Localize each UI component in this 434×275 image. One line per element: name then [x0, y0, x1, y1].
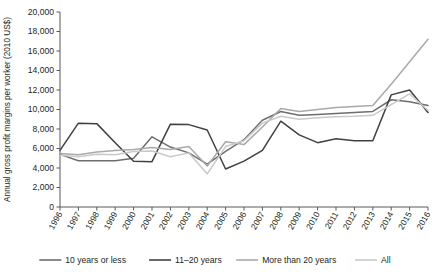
x-tick-label: 2014 — [377, 210, 395, 231]
x-tick-label: 2013 — [359, 210, 377, 231]
legend-item[interactable]: All — [355, 255, 391, 265]
y-tick-label: 14,000 — [28, 65, 55, 75]
chart-canvas: 02,0004,0006,0008,00010,00012,00014,0001… — [0, 0, 434, 275]
y-tick-label: 6,000 — [32, 143, 54, 153]
x-tick-label: 2002 — [157, 210, 175, 231]
y-tick-label: 16,000 — [28, 46, 55, 56]
legend-label: 11–20 years — [175, 255, 222, 265]
legend-label: More than 20 years — [262, 255, 336, 265]
legend-label: All — [381, 255, 391, 265]
x-tick-label: 2001 — [138, 210, 156, 231]
x-tick-label: 2006 — [230, 210, 248, 231]
x-tick-label: 2009 — [285, 210, 303, 231]
legend-item[interactable]: 10 years or less — [39, 255, 126, 265]
y-tick-label: 0 — [49, 202, 54, 212]
y-tick-label: 10,000 — [28, 104, 55, 114]
x-tick-label: 2011 — [323, 210, 341, 231]
x-tick-label: 2000 — [120, 210, 138, 231]
x-tick-label: 2015 — [396, 210, 414, 231]
y-tick-label: 12,000 — [28, 85, 55, 95]
x-tick-label: 2008 — [267, 210, 285, 231]
series-line-2 — [60, 39, 428, 166]
x-tick-label: 2003 — [175, 210, 193, 231]
series-line-1 — [60, 90, 428, 169]
x-tick-label: 1998 — [83, 210, 101, 231]
legend-item[interactable]: 11–20 years — [149, 255, 222, 265]
x-tick-label: 1999 — [101, 210, 119, 231]
x-tick-label: 2016 — [414, 210, 432, 231]
y-tick-label: 2,000 — [32, 182, 54, 192]
legend-label: 10 years or less — [65, 255, 126, 265]
x-tick-label: 1996 — [46, 210, 64, 231]
line-chart: 02,0004,0006,0008,00010,00012,00014,0001… — [0, 0, 434, 275]
y-tick-label: 20,000 — [28, 7, 55, 17]
y-tick-label: 4,000 — [32, 163, 54, 173]
y-tick-label: 8,000 — [32, 124, 54, 134]
y-tick-label: 18,000 — [28, 26, 55, 36]
legend-item[interactable]: More than 20 years — [236, 255, 336, 265]
y-axis-title: Annual gross profit margins per worker (… — [3, 17, 12, 202]
x-tick-label: 1997 — [65, 210, 83, 231]
x-tick-label: 2007 — [249, 210, 267, 231]
x-tick-label: 2004 — [193, 210, 211, 231]
x-tick-label: 2005 — [212, 210, 230, 231]
x-tick-label: 2012 — [341, 210, 359, 231]
x-tick-label: 2010 — [304, 210, 322, 231]
